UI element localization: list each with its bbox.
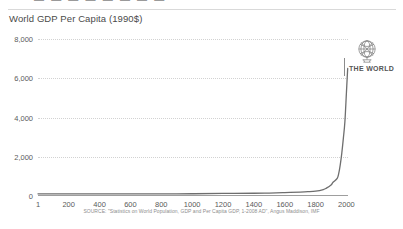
- slide-header-strip: ▬ ▬ ▬ ▬ ▬ ▬ ▬ ▬: [0, 0, 403, 9]
- y-axis-tick-label: 0: [29, 192, 33, 201]
- plot-area: 8,0006,0004,0002,0000 120040060080010001…: [38, 39, 348, 196]
- globe-icon: [353, 38, 381, 66]
- gdp-per-capita-curve: [38, 39, 348, 196]
- y-axis-tick-label: 8,000: [14, 35, 33, 44]
- source-note: SOURCE: "Statistics on World Population,…: [0, 208, 403, 214]
- world-logo-label: THE WORLD: [349, 65, 394, 72]
- y-axis-tick-label: 6,000: [14, 74, 33, 83]
- clipped-header-text: ▬ ▬ ▬ ▬ ▬ ▬ ▬ ▬: [34, 0, 166, 3]
- header-divider: [8, 9, 396, 10]
- chart-title: World GDP Per Capita (1990$): [9, 13, 142, 24]
- y-axis-tick-label: 2,000: [14, 152, 33, 161]
- world-logo: THE WORLD: [348, 38, 403, 76]
- y-axis-tick-label: 4,000: [14, 113, 33, 122]
- logo-divider: [344, 58, 345, 76]
